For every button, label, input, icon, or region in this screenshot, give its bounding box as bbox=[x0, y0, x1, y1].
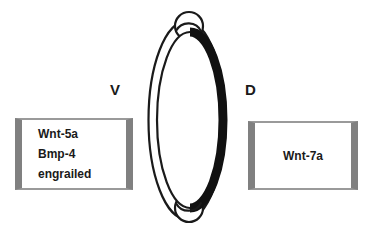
dorsal-gene-box: Wnt-7a bbox=[248, 121, 358, 190]
gene-label: Wnt-7a bbox=[283, 146, 323, 166]
gene-label: engrailed bbox=[38, 164, 91, 184]
limb-bud-diagram bbox=[0, 0, 369, 234]
gene-label: Wnt-5a bbox=[38, 124, 78, 144]
gene-label: Bmp-4 bbox=[38, 144, 75, 164]
dorsal-axis-label: D bbox=[245, 82, 256, 97]
ventral-axis-label: V bbox=[110, 82, 120, 97]
ventral-gene-box: Wnt-5a Bmp-4 engrailed bbox=[15, 118, 133, 190]
limb-bud-patterning-figure: V D Wnt-5a Bmp-4 engrailed Wnt-7a bbox=[0, 0, 369, 234]
